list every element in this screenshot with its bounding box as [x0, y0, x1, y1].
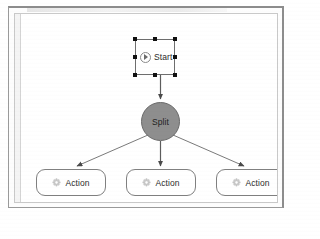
node-start[interactable]: Start [132, 36, 178, 78]
selection-handle-top-left[interactable] [133, 37, 137, 41]
gear-icon [52, 178, 61, 187]
node-action-1-label: Action [65, 178, 89, 188]
application-window: Start Split Action [8, 6, 284, 208]
selection-handle-bottom-center[interactable] [153, 73, 157, 77]
play-icon [140, 52, 151, 63]
selection-handle-top-right[interactable] [173, 37, 177, 41]
node-action-2[interactable]: Action [126, 169, 196, 196]
selection-handle-middle-right[interactable] [173, 55, 177, 59]
selection-handle-middle-left[interactable] [133, 55, 137, 59]
node-action-2-label: Action [155, 178, 179, 188]
edge-split-action-3 [173, 135, 244, 166]
selection-handle-bottom-left[interactable] [133, 73, 137, 77]
node-action-3[interactable]: Action [216, 169, 278, 196]
node-split[interactable]: Split [141, 102, 180, 141]
gear-icon [232, 178, 241, 187]
selection-handle-bottom-right[interactable] [173, 73, 177, 77]
node-action-1[interactable]: Action [36, 169, 106, 196]
node-start-label: Start [154, 52, 172, 62]
gear-icon [142, 178, 151, 187]
node-action-3-label: Action [245, 178, 269, 188]
selection-handle-top-center[interactable] [153, 37, 157, 41]
node-start-body[interactable]: Start [135, 39, 175, 75]
node-split-label: Split [152, 117, 169, 127]
workflow-canvas[interactable]: Start Split Action [14, 13, 278, 203]
window-header-strip [27, 8, 227, 12]
edge-split-action-1 [77, 135, 148, 166]
